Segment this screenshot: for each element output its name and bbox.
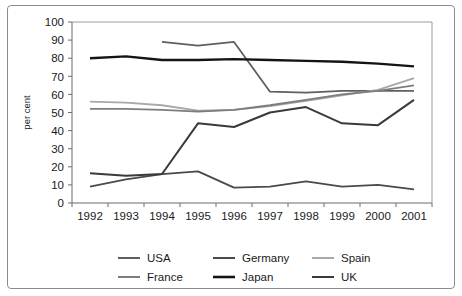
x-tick-label: 1993: [113, 210, 139, 222]
series-line-france: [90, 85, 414, 111]
y-tick-label: 80: [51, 52, 64, 64]
x-tick-label: 1997: [257, 210, 283, 222]
y-tick-label: 70: [51, 71, 64, 83]
y-axis-title: per cent: [21, 95, 32, 130]
series-line-uk: [90, 100, 414, 176]
x-tick-label: 1999: [329, 210, 355, 222]
data-series-group: [90, 42, 414, 190]
chart-figure: 0102030405060708090100 19921993199419951…: [0, 0, 462, 296]
series-line-usa: [162, 42, 414, 93]
chart-legend: USAGermanySpainFranceJapanUK: [118, 252, 370, 283]
y-tick-label: 90: [51, 34, 64, 46]
x-tick-label: 1995: [185, 210, 211, 222]
series-line-germany: [90, 171, 414, 189]
x-axis: 1992199319941995199619971998199920002001: [72, 203, 432, 222]
y-tick-label: 20: [51, 161, 64, 173]
y-tick-label: 100: [45, 16, 64, 28]
line-chart: 0102030405060708090100 19921993199419951…: [0, 0, 462, 296]
legend-label-germany: Germany: [242, 252, 290, 264]
legend-label-usa: USA: [147, 252, 171, 264]
x-tick-label: 2001: [401, 210, 427, 222]
x-tick-label: 1992: [77, 210, 103, 222]
y-tick-label: 30: [51, 143, 64, 155]
y-tick-label: 10: [51, 179, 64, 191]
y-tick-label: 0: [58, 197, 64, 209]
y-tick-label: 50: [51, 107, 64, 119]
y-axis-title-text: per cent: [21, 95, 32, 130]
series-line-japan: [90, 56, 414, 66]
x-tick-label: 1996: [221, 210, 247, 222]
y-axis: 0102030405060708090100: [45, 16, 72, 209]
x-tick-label: 1998: [293, 210, 319, 222]
x-tick-label: 1994: [149, 210, 175, 222]
legend-label-japan: Japan: [242, 271, 273, 283]
y-tick-label: 60: [51, 89, 64, 101]
legend-label-uk: UK: [341, 271, 357, 283]
series-line-spain: [90, 78, 414, 111]
x-tick-label: 2000: [365, 210, 391, 222]
legend-label-spain: Spain: [341, 252, 370, 264]
y-tick-label: 40: [51, 125, 64, 137]
legend-label-france: France: [147, 271, 183, 283]
